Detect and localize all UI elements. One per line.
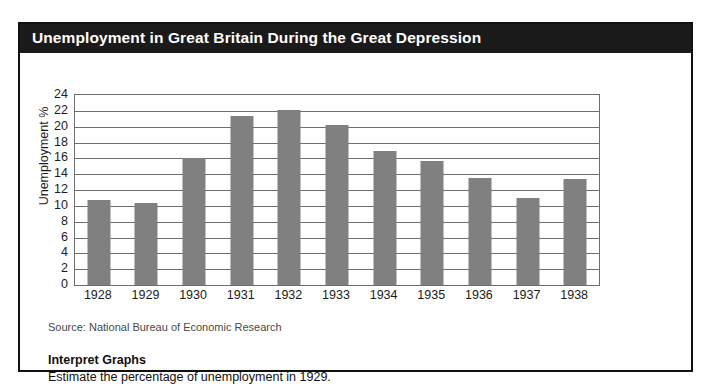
bar — [135, 203, 158, 285]
bar — [421, 161, 444, 285]
bar-slot — [408, 95, 456, 285]
bar — [468, 178, 491, 285]
y-tick-label: 4 — [42, 245, 68, 259]
bar — [278, 110, 301, 285]
bar-series — [75, 95, 599, 285]
bar — [564, 179, 587, 285]
bar-slot — [218, 95, 266, 285]
bar-slot — [266, 95, 314, 285]
plot-area — [74, 94, 600, 286]
chart-panel: Unemployment in Great Britain During the… — [18, 22, 693, 372]
y-axis-tick-labels: 242220181614121086420 — [42, 94, 68, 284]
x-tick-label: 1935 — [417, 288, 445, 302]
x-tick-label: 1928 — [84, 288, 112, 302]
y-tick-label: 16 — [42, 150, 68, 164]
bar-slot — [313, 95, 361, 285]
y-tick-label: 22 — [42, 103, 68, 117]
y-tick-label: 0 — [42, 277, 68, 291]
bar-slot — [456, 95, 504, 285]
x-tick-label: 1930 — [179, 288, 207, 302]
source-note: Source: National Bureau of Economic Rese… — [48, 321, 282, 333]
title-band: Unemployment in Great Britain During the… — [20, 24, 691, 53]
bar — [373, 151, 396, 285]
y-tick-label: 2 — [42, 261, 68, 275]
x-tick-label: 1932 — [274, 288, 302, 302]
x-tick-label: 1934 — [370, 288, 398, 302]
y-tick-label: 6 — [42, 230, 68, 244]
x-tick-label: 1936 — [465, 288, 493, 302]
bar — [230, 116, 253, 285]
y-tick-label: 20 — [42, 119, 68, 133]
bar — [87, 200, 110, 285]
x-tick-label: 1938 — [560, 288, 588, 302]
y-tick-label: 12 — [42, 182, 68, 196]
y-tick-label: 8 — [42, 214, 68, 228]
bar-slot — [361, 95, 409, 285]
bar — [516, 198, 539, 285]
x-tick-label: 1937 — [513, 288, 541, 302]
page-title: Unemployment in Great Britain During the… — [32, 29, 481, 47]
bar-slot — [75, 95, 123, 285]
bar — [325, 125, 348, 285]
x-axis-tick-labels: 1928192919301931193219331934193519361937… — [74, 288, 598, 308]
chart-area: Unemployment % 242220181614121086420 192… — [20, 53, 691, 370]
interpret-heading: Interpret Graphs — [48, 353, 146, 367]
x-tick-label: 1933 — [322, 288, 350, 302]
bar — [183, 158, 206, 285]
bar-slot — [551, 95, 599, 285]
y-tick-label: 10 — [42, 198, 68, 212]
bar-slot — [170, 95, 218, 285]
interpret-question: Estimate the percentage of unemployment … — [48, 370, 331, 384]
y-tick-label: 24 — [42, 87, 68, 101]
y-tick-label: 18 — [42, 135, 68, 149]
x-tick-label: 1931 — [227, 288, 255, 302]
y-tick-label: 14 — [42, 166, 68, 180]
bar-slot — [504, 95, 552, 285]
bar-slot — [123, 95, 171, 285]
x-tick-label: 1929 — [132, 288, 160, 302]
